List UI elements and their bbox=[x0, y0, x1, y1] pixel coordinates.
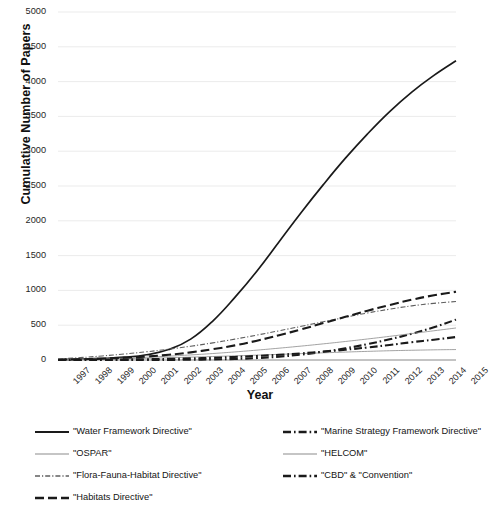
series-line bbox=[58, 61, 456, 360]
legend-item[interactable]: "Water Framework Directive" bbox=[34, 424, 192, 440]
legend-line-swatch bbox=[34, 425, 70, 439]
series-line bbox=[58, 292, 456, 360]
y-tick-label: 3500 bbox=[0, 110, 46, 120]
legend-label: "CBD" & "Convention" bbox=[321, 471, 412, 480]
legend-line-swatch bbox=[282, 447, 318, 461]
y-tick-label: 1500 bbox=[0, 250, 46, 260]
legend-item[interactable]: "Marine Strategy Framework Directive" bbox=[282, 424, 481, 440]
legend-item[interactable]: "Flora-Fauna-Habitat Directive" bbox=[34, 468, 202, 484]
legend-item[interactable]: "HELCOM" bbox=[282, 446, 367, 462]
legend-line-swatch bbox=[34, 491, 70, 505]
x-tick-label: 2015 bbox=[469, 365, 490, 386]
legend-item[interactable]: "Habitats Directive" bbox=[34, 490, 152, 506]
series-lines bbox=[58, 61, 456, 360]
legend-line-swatch bbox=[34, 469, 70, 483]
x-axis-title: Year bbox=[150, 388, 370, 402]
legend-label: "Water Framework Directive" bbox=[73, 427, 192, 436]
y-tick-label: 1000 bbox=[0, 284, 46, 294]
legend-label: "Marine Strategy Framework Directive" bbox=[321, 427, 481, 436]
y-tick-label: 5000 bbox=[0, 6, 46, 16]
y-tick-label: 2500 bbox=[0, 180, 46, 190]
gridlines bbox=[58, 12, 456, 360]
legend-label: "Flora-Fauna-Habitat Directive" bbox=[73, 471, 202, 480]
legend-label: "Habitats Directive" bbox=[73, 493, 152, 502]
y-tick-label: 2000 bbox=[0, 215, 46, 225]
chart-legend: "Water Framework Directive""Marine Strat… bbox=[34, 424, 470, 506]
y-tick-label: 4000 bbox=[0, 76, 46, 86]
legend-line-swatch bbox=[282, 425, 318, 439]
legend-item[interactable]: "OSPAR" bbox=[34, 446, 111, 462]
legend-item[interactable]: "CBD" & "Convention" bbox=[282, 468, 412, 484]
legend-line-swatch bbox=[282, 469, 318, 483]
y-tick-label: 500 bbox=[0, 319, 46, 329]
y-tick-label: 4500 bbox=[0, 41, 46, 51]
y-tick-label: 3000 bbox=[0, 145, 46, 155]
legend-label: "HELCOM" bbox=[321, 449, 367, 458]
legend-line-swatch bbox=[34, 447, 70, 461]
y-tick-label: 0 bbox=[0, 354, 46, 364]
legend-label: "OSPAR" bbox=[73, 449, 111, 458]
